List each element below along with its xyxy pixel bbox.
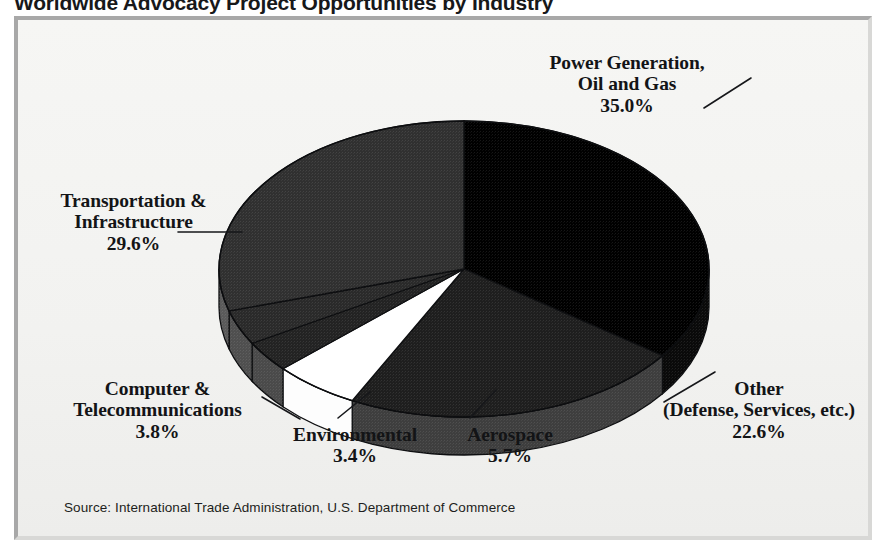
slice-label-line2: Telecommunications <box>40 399 275 420</box>
pie-slices <box>219 121 709 417</box>
slice-label-line1: Aerospace <box>435 424 585 445</box>
slice-value: 3.8% <box>40 421 275 442</box>
slice-label-line1: Transportation & <box>26 190 241 211</box>
chart-plot-area: Power Generation, Oil and Gas 35.0% Tran… <box>18 20 868 536</box>
slice-label-power-generation: Power Generation, Oil and Gas 35.0% <box>522 52 732 116</box>
slice-value: 3.4% <box>270 445 440 466</box>
page-title: Worldwide Advocacy Project Opportunities… <box>14 0 553 15</box>
slice-label-aerospace: Aerospace 5.7% <box>435 424 585 467</box>
slice-value: 29.6% <box>26 233 241 254</box>
slice-label-line2: Infrastructure <box>26 211 241 232</box>
slice-label-line1: Computer & <box>40 378 275 399</box>
slice-value: 5.7% <box>435 445 585 466</box>
slice-label-environmental: Environmental 3.4% <box>270 424 440 467</box>
slice-label-computer-telecommunications: Computer & Telecommunications 3.8% <box>40 378 275 442</box>
slice-label-other: Other (Defense, Services, etc.) 22.6% <box>634 378 884 442</box>
slice-value: 35.0% <box>522 95 732 116</box>
slice-value: 22.6% <box>634 421 884 442</box>
slice-label-line2: Oil and Gas <box>522 73 732 94</box>
source-note: Source: International Trade Administrati… <box>64 500 515 515</box>
slice-label-line1: Power Generation, <box>522 52 732 73</box>
slice-label-transportation-infrastructure: Transportation & Infrastructure 29.6% <box>26 190 241 254</box>
slice-label-line1: Other <box>634 378 884 399</box>
chart-frame: Power Generation, Oil and Gas 35.0% Tran… <box>14 16 872 540</box>
slice-label-line1: Environmental <box>270 424 440 445</box>
slice-label-line2: (Defense, Services, etc.) <box>634 399 884 420</box>
